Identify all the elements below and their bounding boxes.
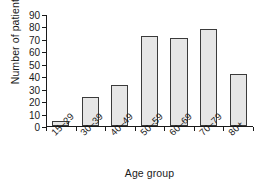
y-tick-mark bbox=[42, 65, 46, 66]
y-tick-label: 30 bbox=[29, 84, 40, 95]
y-tick-label: 70 bbox=[29, 34, 40, 45]
y-tick-label: 10 bbox=[29, 109, 40, 120]
y-tick-mark bbox=[42, 52, 46, 53]
y-tick-label: 50 bbox=[29, 59, 40, 70]
y-axis-title: Number of patients bbox=[9, 0, 21, 95]
y-tick-mark bbox=[42, 90, 46, 91]
x-tick-mark bbox=[253, 127, 254, 131]
y-tick-mark bbox=[42, 40, 46, 41]
y-tick-label: 0 bbox=[34, 122, 40, 133]
y-tick-label: 40 bbox=[29, 72, 40, 83]
plot-area: 0102030405060708090 bbox=[46, 15, 253, 127]
y-tick-label: 20 bbox=[29, 97, 40, 108]
y-tick-label: 90 bbox=[29, 10, 40, 21]
x-axis-tick-labels: 15–2930–3940–4950–5960–6970–7980+ bbox=[46, 130, 253, 166]
y-tick-label: 80 bbox=[29, 22, 40, 33]
y-tick-mark bbox=[42, 115, 46, 116]
y-tick-mark bbox=[42, 27, 46, 28]
y-tick-mark bbox=[42, 102, 46, 103]
x-axis-title: Age group bbox=[46, 167, 253, 179]
bar-chart-figure: Number of patients 0102030405060708090 1… bbox=[0, 0, 264, 186]
y-tick-mark bbox=[42, 77, 46, 78]
y-axis-line bbox=[46, 15, 47, 127]
y-tick-mark bbox=[42, 15, 46, 16]
y-tick-label: 60 bbox=[29, 47, 40, 58]
